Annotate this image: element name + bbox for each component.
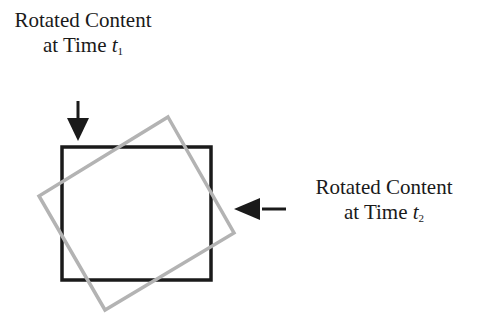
label-t2-line1: Rotated Content [292,175,476,200]
label-t1-line2: at Time t1 [0,33,166,64]
label-t2-line2: at Time t2 [292,200,476,231]
rotation-diagram: Rotated Content at Time t1 Rotated Conte… [0,0,504,324]
label-time-t2: Rotated Content at Time t2 [292,175,476,231]
arrow-down-icon [67,101,89,141]
label-t1-line1: Rotated Content [0,8,166,33]
label-time-t1: Rotated Content at Time t1 [0,8,166,64]
arrow-left-icon [234,198,286,220]
